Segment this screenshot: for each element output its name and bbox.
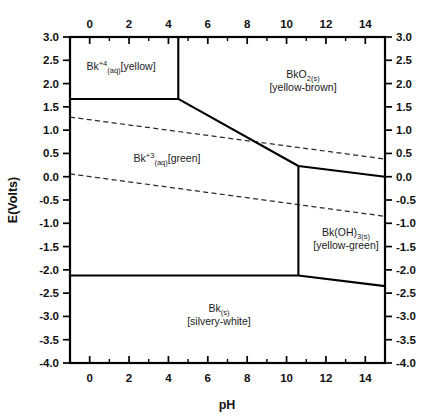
y-axis-left-tick-labels: 3.02.52.01.51.00.50.0-0.5-1.0-1.5-2.0-2.… [39,31,59,369]
x-tick-label-bottom: 12 [320,372,333,384]
y-tick-label-right: -3.0 [396,310,416,322]
y-tick-label-right: 1.5 [396,101,413,113]
y-tick-label-right: -0.5 [396,194,416,206]
y-tick-label-left: 2.0 [43,78,59,90]
bk4-color-note: [yellow] [121,60,156,72]
y-tick-label-right: -2.5 [396,287,416,299]
y-tick-label-left: -2.5 [39,287,59,299]
bk4-species: Bk [86,60,99,72]
x-tick-label-bottom: 0 [86,372,92,384]
y-tick-label-right: -4.0 [396,357,416,369]
x-tick-label-top: 4 [165,18,172,30]
y-tick-label-right: -1.5 [396,241,416,253]
y-tick-label-right: 0.5 [396,147,413,159]
y-tick-label-right: 2.5 [396,54,413,66]
pourbaix-figure: 02468101214 02468101214 3.02.52.01.51.00… [0,0,431,418]
x-tick-label-top: 14 [359,18,372,30]
y-tick-label-left: -2.0 [39,264,59,276]
bks-species: Bk [208,302,221,314]
y-tick-label-left: 0.0 [43,171,59,183]
bkoh3-species: Bk(OH) [322,226,357,238]
y-tick-label-right: 1.0 [396,124,412,136]
y-tick-label-right: -3.5 [396,334,416,346]
y-tick-label-left: 1.5 [43,101,60,113]
x-tick-label-bottom: 8 [244,372,251,384]
x-tick-label-bottom: 2 [126,372,132,384]
y-tick-label-left: -4.0 [39,357,59,369]
y-tick-label-right: -2.0 [396,264,416,276]
y-tick-label-left: 0.5 [43,147,60,159]
x-tick-label-top: 10 [280,18,293,30]
bk3-subscript: (aq) [154,158,168,167]
x-tick-label-bottom: 14 [359,372,372,384]
y-tick-label-right: 2.0 [396,78,412,90]
x-tick-label-bottom: 6 [205,372,211,384]
x-tick-label-top: 12 [320,18,333,30]
y-tick-label-left: -3.5 [39,334,59,346]
bkoh3-color-note: [yellow-green] [313,239,378,251]
y-tick-label-left: -0.5 [39,194,59,206]
y-tick-label-left: 1.0 [43,124,59,136]
x-tick-label-top: 0 [86,18,92,30]
x-tick-label-top: 8 [244,18,251,30]
y-tick-label-right: 0.0 [396,171,412,183]
x-tick-label-bottom: 10 [280,372,293,384]
bk4-subscript: (aq) [107,66,121,75]
y-tick-label-right: -1.0 [396,217,416,229]
y-tick-label-left: -1.5 [39,241,59,253]
x-tick-label-bottom: 4 [165,372,172,384]
y-tick-label-left: -1.0 [39,217,59,229]
x-tick-label-top: 6 [205,18,211,30]
bko2-species: BkO [286,68,306,80]
pourbaix-chart-svg: 02468101214 02468101214 3.02.52.01.51.00… [0,0,431,418]
bk3-species: Bk [134,152,147,164]
y-tick-label-right: 3.0 [396,31,412,43]
y-tick-label-left: 2.5 [43,54,60,66]
bk4-superscript: +4 [99,59,108,68]
y-axis-title: E(Volts) [6,177,20,223]
bk3-superscript: +3 [146,151,155,160]
y-tick-label-left: -3.0 [39,310,59,322]
chart-background [0,0,431,418]
x-tick-label-top: 2 [126,18,132,30]
bk3-color-note: [green] [168,152,201,164]
bks-color-note: [silvery-white] [187,315,251,327]
y-tick-label-left: 3.0 [43,31,59,43]
x-axis-title: pH [219,398,236,412]
bko2-color-note: [yellow-brown] [269,81,336,93]
